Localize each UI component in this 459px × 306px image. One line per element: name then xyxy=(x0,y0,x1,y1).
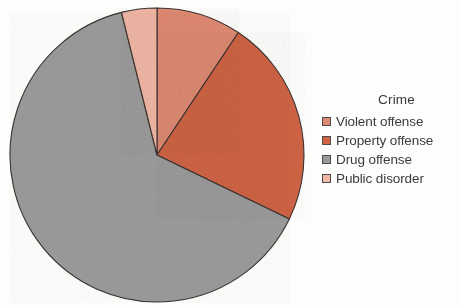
legend-items: Violent offenseProperty offenseDrug offe… xyxy=(322,112,459,188)
legend-item-label: Drug offense xyxy=(336,152,412,167)
legend-item-label: Violent offense xyxy=(336,114,423,129)
legend-item-label: Property offense xyxy=(336,133,433,148)
legend-item-public-disorder[interactable]: Public disorder xyxy=(322,169,459,188)
pie-chart-figure: Crime Violent offenseProperty offenseDru… xyxy=(0,0,459,306)
legend-swatch-icon xyxy=(322,155,331,164)
pie-grain-overlay xyxy=(10,8,304,302)
legend-title: Crime xyxy=(322,92,459,107)
legend-swatch-icon xyxy=(322,136,331,145)
legend: Crime Violent offenseProperty offenseDru… xyxy=(322,92,459,188)
legend-item-label: Public disorder xyxy=(336,171,424,186)
legend-item-drug-offense[interactable]: Drug offense xyxy=(322,150,459,169)
legend-item-violent-offense[interactable]: Violent offense xyxy=(322,112,459,131)
legend-item-property-offense[interactable]: Property offense xyxy=(322,131,459,150)
legend-swatch-icon xyxy=(322,174,331,183)
legend-swatch-icon xyxy=(322,117,331,126)
